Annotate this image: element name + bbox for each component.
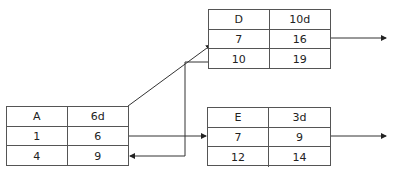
node-d: D 10d 7 16 10 19 [208,9,331,69]
node-e-late-start: 12 [208,147,269,167]
node-d-late-start: 10 [209,49,270,69]
node-e-early-start: 7 [208,128,269,148]
node-e: E 3d 7 9 12 14 [207,107,331,166]
node-a-late-finish: 9 [68,146,129,166]
node-a-early-finish: 6 [68,127,129,147]
node-e-name: E [208,108,269,128]
node-a-duration: 6d [68,107,129,127]
node-a-name: A [7,107,68,127]
node-a-early-start: 1 [7,127,68,147]
node-a-late-start: 4 [7,146,68,166]
node-d-duration: 10d [270,10,331,30]
node-e-late-finish: 14 [269,147,330,167]
node-e-early-finish: 9 [269,128,330,148]
node-d-late-finish: 19 [270,49,331,69]
node-d-name: D [209,10,270,30]
node-d-early-finish: 16 [270,30,331,50]
node-d-early-start: 7 [209,30,270,50]
node-e-duration: 3d [269,108,330,128]
arrow-a-to-d [128,45,211,106]
node-a: A 6d 1 6 4 9 [6,106,129,166]
